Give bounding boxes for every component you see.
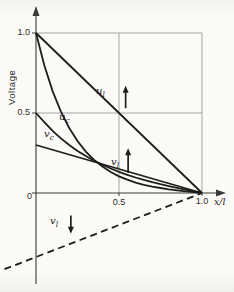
curve-label-u_l-sub: l	[102, 90, 104, 99]
x-tick-0.5: 0.5	[110, 197, 128, 207]
y-tick-1.0: 1.0	[6, 27, 30, 37]
x-tick-1.0: 1.0	[193, 196, 211, 206]
curve-label-v_c-sub: c	[50, 133, 54, 142]
v_l-negative-direction-arrow-icon	[68, 227, 74, 234]
curve-label-u_l: ul	[96, 86, 105, 99]
u_l-direction-arrow-icon	[123, 86, 129, 93]
curve-label-v_l-sub: l	[117, 161, 119, 170]
curve-label-v_c: vc	[44, 129, 54, 142]
curve-label-v_l-negative-sub: l	[56, 220, 58, 229]
x-axis-title: x/l	[214, 196, 226, 207]
y-tick-0.5: 0.5	[6, 107, 30, 117]
curve-label-v_l: vl	[111, 157, 119, 170]
y-axis-arrowhead-icon	[33, 6, 40, 16]
curve-v_l_negative	[5, 193, 203, 269]
curve-label-v_l-negative: vl	[50, 216, 58, 229]
plot-svg	[0, 0, 234, 292]
y-tick-0: 0	[8, 191, 32, 201]
curve-label-u_c-sub: c	[65, 116, 69, 125]
voltage-distribution-figure: Voltage 1.0 0.5 0 0.5 1.0 x/l ul uc vc v…	[0, 0, 234, 292]
curve-label-u_c: uc	[59, 112, 70, 125]
v_l-direction-arrow-icon	[125, 148, 131, 155]
